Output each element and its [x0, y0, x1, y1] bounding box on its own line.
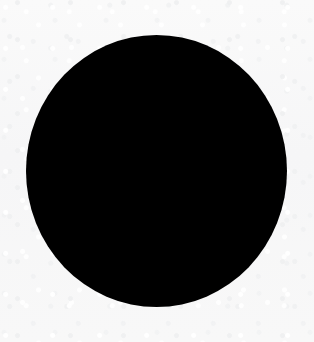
black-disc-shape — [26, 35, 287, 307]
shape-layer — [0, 0, 314, 342]
figure-svg — [0, 0, 314, 342]
figure-canvas: Solid black disc on light paper backgrou… — [0, 0, 314, 342]
